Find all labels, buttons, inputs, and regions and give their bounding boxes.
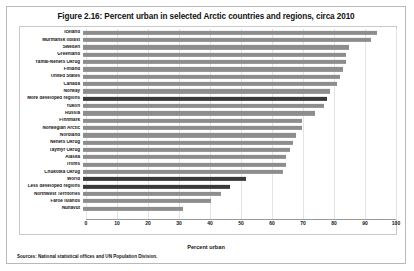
bar-track [83, 124, 396, 131]
bar-track [83, 161, 396, 168]
bar-track [83, 132, 396, 139]
bar-track [83, 198, 396, 205]
category-label: Sweden [20, 45, 83, 50]
bar-track [83, 36, 396, 43]
bar-row: Finland [20, 66, 396, 73]
bar-track [83, 168, 396, 175]
bar-row: Yamal-Nenets Okrug [20, 58, 396, 65]
bar-row: More developed regions [20, 95, 396, 102]
bar-row: Sweden [20, 44, 396, 51]
x-tick-label: 80 [331, 220, 337, 226]
bar-track [83, 176, 396, 183]
bar [83, 104, 324, 108]
bar-row: Nunavut [20, 205, 396, 212]
bar-track [83, 102, 396, 109]
bar [83, 162, 286, 166]
bar-row: Taymyr Okrug [20, 146, 396, 153]
category-label: Canada [20, 82, 83, 87]
bar-track [83, 80, 396, 87]
bar [83, 170, 283, 174]
bar [83, 133, 296, 137]
bar-row: Russia [20, 110, 396, 117]
bar-rows: IcelandMurmansk oblastSwedenGreenlandYam… [20, 29, 396, 220]
figure-title: Figure 2.16: Percent urban in selected A… [7, 12, 405, 21]
bar-track [83, 139, 396, 146]
bar [83, 118, 302, 122]
bar-track [83, 66, 396, 73]
bar-row: Murmansk oblast [20, 36, 396, 43]
category-label: Finnmark [20, 118, 83, 123]
category-label: Murmansk oblast [20, 38, 83, 43]
bar-row: United States [20, 73, 396, 80]
source-note: Sources: National statistical offices an… [17, 254, 157, 259]
bar-row: Norway [20, 88, 396, 95]
category-label: Nunavut [20, 206, 83, 211]
bar-track [83, 73, 396, 80]
bar-row: Faroe Islands [20, 198, 396, 205]
bar [83, 155, 286, 159]
category-label: Finland [20, 67, 83, 72]
bar-track [83, 154, 396, 161]
x-tick-label: 0 [85, 220, 88, 226]
category-label: Alaska [20, 155, 83, 160]
x-tick-label: 10 [114, 220, 120, 226]
bar-track [83, 190, 396, 197]
category-label: Taymyr Okrug [20, 148, 83, 153]
bar-track [83, 44, 396, 51]
bar [83, 38, 371, 42]
x-tick-label: 90 [362, 220, 368, 226]
bar-track [83, 110, 396, 117]
bar-track [83, 29, 396, 36]
bar-row: Less developed regions [20, 183, 396, 190]
x-tick-label: 40 [207, 220, 213, 226]
category-label: Chukotka Okrug [20, 170, 83, 175]
bar-row: Nenets Okrug [20, 139, 396, 146]
category-label: Yamal-Nenets Okrug [20, 60, 83, 65]
bar [83, 192, 221, 196]
bar [83, 75, 340, 79]
x-tick-label: 50 [238, 220, 244, 226]
bar [83, 177, 246, 181]
bar [83, 45, 349, 49]
bar-track [83, 146, 396, 153]
x-tick-label: 100 [392, 220, 400, 226]
bar-row: World [20, 176, 396, 183]
bar-row: Canada [20, 80, 396, 87]
gridline [396, 29, 397, 220]
bar-track [83, 95, 396, 102]
bar [83, 126, 302, 130]
category-label: Norway [20, 89, 83, 94]
x-tick-label: 20 [145, 220, 151, 226]
bar [83, 67, 343, 71]
bar [83, 60, 346, 64]
bar-row: Nordland [20, 132, 396, 139]
category-label: Iceland [20, 30, 83, 35]
bar [83, 184, 230, 188]
bar [83, 96, 327, 100]
category-label: United States [20, 74, 83, 79]
category-label: Greenland [20, 52, 83, 57]
bar [83, 199, 211, 203]
bar [83, 53, 346, 57]
category-label: Yukon [20, 104, 83, 109]
bar-track [83, 117, 396, 124]
bar-row: Norwegian Arctic [20, 124, 396, 131]
x-axis-label: Percent urban [7, 244, 405, 250]
bar-row: Yukon [20, 102, 396, 109]
category-label: Troms [20, 162, 83, 167]
bar [83, 111, 315, 115]
bar [83, 82, 337, 86]
x-tick-label: 60 [269, 220, 275, 226]
category-label: Northwest Territories [20, 192, 83, 197]
bar-row: Alaska [20, 154, 396, 161]
bar-track [83, 58, 396, 65]
bar-track [83, 51, 396, 58]
category-label: Nordland [20, 133, 83, 138]
plot-area: IcelandMurmansk oblastSwedenGreenlandYam… [19, 26, 397, 235]
bar [83, 148, 290, 152]
bar-row: Finnmark [20, 117, 396, 124]
bar-row: Greenland [20, 51, 396, 58]
category-label: Faroe Islands [20, 199, 83, 204]
bar-track [83, 183, 396, 190]
category-label: Less developed regions [20, 184, 83, 189]
